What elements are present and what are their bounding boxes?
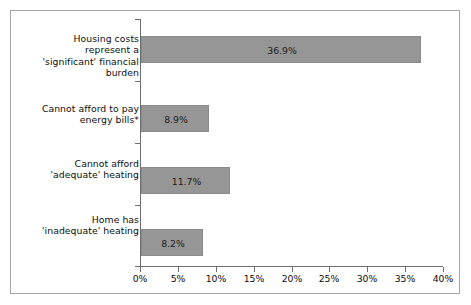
bar-value-label: 36.9% bbox=[142, 37, 422, 64]
x-axis-tick bbox=[216, 267, 217, 272]
x-axis-tick-label: 5% bbox=[158, 273, 198, 284]
y-axis-tick bbox=[135, 19, 140, 20]
category-label-housing-costs: Housing costs represent a 'significant' … bbox=[21, 33, 139, 78]
x-axis-tick-label: 10% bbox=[196, 273, 236, 284]
x-axis-tick-label: 35% bbox=[385, 273, 425, 284]
category-label-adequate-heating: Cannot afford 'adequate' heating bbox=[21, 158, 139, 181]
category-label-line: energy bills* bbox=[21, 114, 139, 125]
category-label-line: burden bbox=[21, 67, 139, 78]
category-label-line: 'significant' financial bbox=[21, 56, 139, 67]
x-axis-tick bbox=[178, 267, 179, 272]
bar-adequate-heating: 11.7% bbox=[141, 167, 230, 194]
x-axis-tick bbox=[254, 267, 255, 272]
x-axis-tick-label: 0% bbox=[120, 273, 160, 284]
category-label-inadequate-heating: Home has 'inadequate' heating bbox=[21, 214, 139, 237]
x-axis-tick bbox=[292, 267, 293, 272]
bar-value-label: 8.9% bbox=[142, 106, 210, 133]
x-axis-tick bbox=[443, 267, 444, 272]
x-axis-tick-label: 30% bbox=[347, 273, 387, 284]
x-axis-tick bbox=[140, 267, 141, 272]
y-axis-tick bbox=[135, 143, 140, 144]
category-label-line: 'adequate' heating bbox=[21, 169, 139, 180]
bar-energy-bills: 8.9% bbox=[141, 105, 209, 132]
category-label-line: Cannot afford bbox=[21, 158, 139, 169]
category-label-line: represent a bbox=[21, 44, 139, 55]
category-label-line: Housing costs bbox=[21, 33, 139, 44]
category-label-line: Cannot afford to pay bbox=[21, 103, 139, 114]
x-axis-tick-label: 25% bbox=[309, 273, 349, 284]
y-axis-tick bbox=[135, 81, 140, 82]
category-label-energy-bills: Cannot afford to pay energy bills* bbox=[21, 103, 139, 126]
category-label-line: 'inadequate' heating bbox=[21, 225, 139, 236]
bar-value-label: 11.7% bbox=[142, 168, 231, 195]
x-axis-tick-label: 40% bbox=[423, 273, 463, 284]
bar-chart-plot-area: Housing costs represent a 'significant' … bbox=[11, 11, 461, 295]
x-axis-tick-label: 20% bbox=[272, 273, 312, 284]
x-axis-tick bbox=[405, 267, 406, 272]
bar-inadequate-heating: 8.2% bbox=[141, 229, 203, 256]
x-axis-tick bbox=[367, 267, 368, 272]
y-axis-tick bbox=[135, 205, 140, 206]
bar-housing-costs: 36.9% bbox=[141, 36, 421, 63]
chart-frame: Housing costs represent a 'significant' … bbox=[10, 10, 460, 294]
x-axis-tick-label: 15% bbox=[234, 273, 274, 284]
category-label-line: Home has bbox=[21, 214, 139, 225]
x-axis-tick bbox=[329, 267, 330, 272]
bar-value-label: 8.2% bbox=[142, 230, 204, 257]
